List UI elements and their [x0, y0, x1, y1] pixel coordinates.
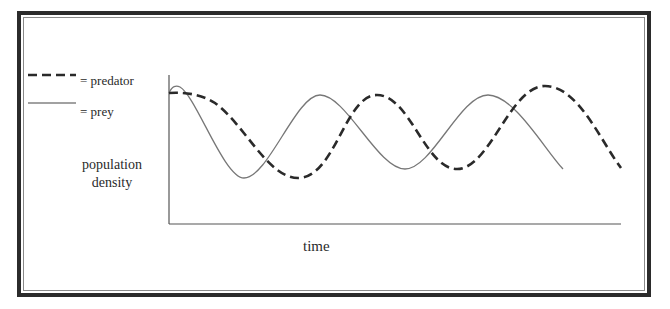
x-axis-label: time	[303, 238, 330, 254]
legend-prey-label: = prey	[80, 104, 114, 120]
legend-predator-label: = predator	[80, 73, 134, 89]
predator-curve	[169, 86, 621, 178]
predator-prey-chart	[0, 0, 670, 309]
y-axis-label-line2: density	[72, 174, 152, 192]
y-axis-label: population density	[72, 156, 152, 192]
y-axis-label-line1: population	[72, 156, 152, 174]
